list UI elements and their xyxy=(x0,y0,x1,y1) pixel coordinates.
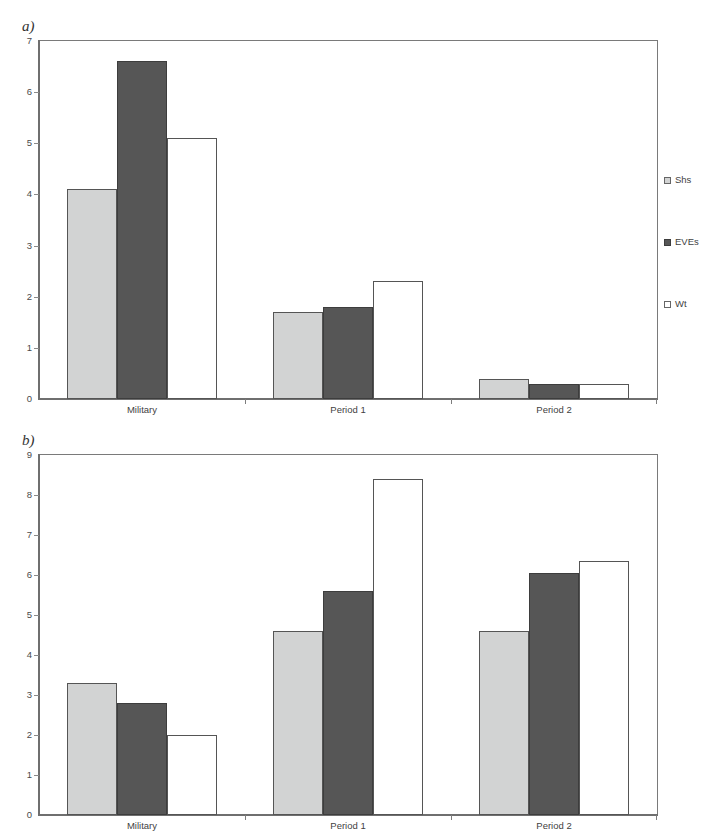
bar-wt-period-2 xyxy=(579,384,629,399)
y-axis-tick-label: 1 xyxy=(27,770,32,780)
bar-shs-period-1 xyxy=(273,631,323,815)
y-axis-tick xyxy=(34,297,39,298)
y-axis-tick xyxy=(34,194,39,195)
plot-area-b: 0123456789MilitaryPeriod 1Period 2 xyxy=(38,454,658,816)
y-axis-tick xyxy=(34,695,39,696)
chart-panel-a: a) 01234567MilitaryPeriod 1Period 2 Shs … xyxy=(0,18,722,424)
y-axis-tick xyxy=(34,246,39,247)
x-axis-group-tick xyxy=(245,815,246,820)
y-axis-tick-label: 6 xyxy=(27,87,32,97)
x-axis-label-military: Military xyxy=(127,405,157,415)
y-axis-line-b xyxy=(38,454,40,816)
bar-wt-military xyxy=(167,138,217,399)
bar-wt-period-1 xyxy=(373,281,423,399)
legend-item-shs[interactable]: Shs xyxy=(664,174,699,186)
y-axis-line-a xyxy=(38,40,40,400)
y-axis-tick-label: 0 xyxy=(27,810,32,820)
y-axis-tick xyxy=(34,655,39,656)
bar-shs-period-2 xyxy=(479,379,529,399)
figure-bar-charts: a) 01234567MilitaryPeriod 1Period 2 Shs … xyxy=(0,0,722,838)
y-axis-tick-label: 2 xyxy=(27,292,32,302)
y-axis-tick-label: 4 xyxy=(27,650,32,660)
y-axis-tick xyxy=(34,615,39,616)
bar-wt-military xyxy=(167,735,217,815)
bar-eves-period-2 xyxy=(529,384,579,399)
y-axis-tick-label: 9 xyxy=(27,450,32,460)
legend-swatch-eves-icon xyxy=(664,239,671,246)
legend-swatch-shs-icon xyxy=(664,177,671,184)
y-axis-tick xyxy=(34,495,39,496)
plot-area-a: 01234567MilitaryPeriod 1Period 2 xyxy=(38,40,658,400)
x-axis-group-tick xyxy=(656,399,657,404)
bar-shs-period-2 xyxy=(479,631,529,815)
bar-shs-military xyxy=(67,683,117,815)
panel-label-b: b) xyxy=(22,432,35,449)
bar-eves-period-1 xyxy=(323,307,373,399)
y-axis-tick-label: 6 xyxy=(27,570,32,580)
y-axis-tick xyxy=(34,735,39,736)
chart-panel-b: b) 0123456789MilitaryPeriod 1Period 2 Sh… xyxy=(0,432,722,838)
legend-item-eves[interactable]: EVEs xyxy=(664,236,699,248)
legend-a: Shs EVEs Wt xyxy=(664,174,699,310)
x-axis-label-period-2: Period 2 xyxy=(536,405,571,415)
y-axis-tick-label: 2 xyxy=(27,730,32,740)
legend-label-wt: Wt xyxy=(675,299,687,309)
y-axis-tick-label: 5 xyxy=(27,139,32,149)
y-axis-tick xyxy=(34,775,39,776)
y-axis-tick-label: 5 xyxy=(27,610,32,620)
x-axis-group-tick xyxy=(656,815,657,820)
x-axis-group-tick xyxy=(451,399,452,404)
bar-wt-period-2 xyxy=(579,561,629,815)
y-axis-tick-label: 3 xyxy=(27,690,32,700)
x-axis-label-military: Military xyxy=(127,821,157,831)
y-axis-tick-label: 7 xyxy=(27,36,32,46)
plot-inner-a: 01234567MilitaryPeriod 1Period 2 xyxy=(39,41,657,399)
bar-eves-military xyxy=(117,703,167,815)
y-axis-tick xyxy=(34,535,39,536)
legend-label-eves: EVEs xyxy=(675,237,699,247)
y-axis-tick-label: 7 xyxy=(27,530,32,540)
legend-item-wt[interactable]: Wt xyxy=(664,298,699,310)
bar-wt-period-1 xyxy=(373,479,423,815)
x-axis-group-tick xyxy=(451,815,452,820)
bar-eves-military xyxy=(117,61,167,399)
bar-shs-military xyxy=(67,189,117,399)
bar-shs-period-1 xyxy=(273,312,323,399)
y-axis-tick-label: 4 xyxy=(27,190,32,200)
bar-eves-period-1 xyxy=(323,591,373,815)
y-axis-tick xyxy=(34,92,39,93)
y-axis-tick-label: 3 xyxy=(27,241,32,251)
x-axis-label-period-1: Period 1 xyxy=(330,821,365,831)
y-axis-tick xyxy=(34,348,39,349)
x-axis-group-tick xyxy=(245,399,246,404)
y-axis-tick xyxy=(34,575,39,576)
y-axis-tick-label: 0 xyxy=(27,394,32,404)
y-axis-tick-label: 1 xyxy=(27,343,32,353)
y-axis-tick xyxy=(34,143,39,144)
x-axis-label-period-1: Period 1 xyxy=(330,405,365,415)
legend-label-shs: Shs xyxy=(675,175,691,185)
panel-label-a: a) xyxy=(22,18,35,35)
x-axis-label-period-2: Period 2 xyxy=(536,821,571,831)
plot-inner-b: 0123456789MilitaryPeriod 1Period 2 xyxy=(39,455,657,815)
bar-eves-period-2 xyxy=(529,573,579,815)
legend-swatch-wt-icon xyxy=(664,301,671,308)
y-axis-tick-label: 8 xyxy=(27,490,32,500)
